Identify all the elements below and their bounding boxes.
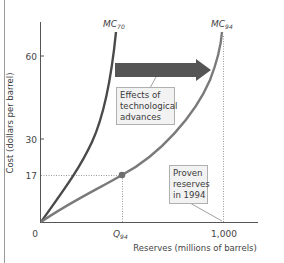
proven-line-3: in 1994 [173,190,204,201]
q94-label: Q94 [113,229,128,240]
y-tick-label-30: 30 [26,135,38,145]
q94-point [119,172,126,179]
effects-line-2: technological [120,101,171,112]
proven-reserves-box: Proven reserves in 1994 [169,165,208,204]
y-axis-label: Cost (dollars per barrel) [5,58,15,188]
proven-line-2: reserves [173,179,204,190]
shift-arrow-icon [115,59,211,81]
effects-annotation-box: Effects of technological advances [116,87,175,125]
mc94-label: MC94 [211,19,233,30]
mc70-curve [41,32,116,222]
chart-canvas: 60 30 17 0 1,000 Q94 MC70 MC94 Reserves … [0,0,284,263]
mc70-label: MC70 [103,19,125,30]
effects-line-1: Effects of [120,90,171,101]
effects-line-3: advances [120,112,171,123]
x-axis-label: Reserves (millions of barrels) [133,243,257,253]
y-tick-label-60: 60 [26,52,38,62]
proven-connector [190,203,222,221]
x-tick-label-0: 0 [32,229,38,239]
x-tick-label-1000: 1,000 [211,229,237,239]
y-tick-label-17: 17 [26,171,37,181]
proven-line-1: Proven [173,168,204,179]
